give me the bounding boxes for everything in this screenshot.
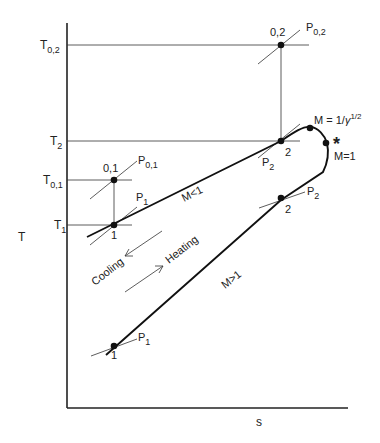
t-s-diagram: T s T0,2 T2 T0,1 T1 (0, 0, 380, 443)
label-point-01: 0,1 (103, 162, 118, 174)
label-isobar-p02: P0,2 (306, 21, 326, 37)
label-subsonic-branch: M<1 (179, 183, 204, 204)
y-axis-label: T (18, 230, 26, 244)
tick-t01: T0,1 (43, 173, 63, 190)
axes: T s (18, 23, 348, 429)
heating-arrow-icon (125, 266, 163, 292)
label-point-02: 0,2 (270, 26, 285, 38)
label-isobar-p2-subsonic: P2 (262, 156, 274, 172)
label-sonic: M=1 (334, 150, 356, 162)
label-point-2-supersonic: 2 (285, 203, 291, 215)
tick-t2: T2 (50, 134, 62, 151)
point-1-subsonic (111, 222, 118, 229)
point-max-temperature (307, 125, 314, 132)
label-point-2-subsonic: 2 (285, 146, 291, 158)
label-supersonic-branch: M>1 (219, 268, 244, 291)
label-isobar-p1-supersonic: P1 (138, 331, 150, 347)
point-02 (278, 42, 285, 49)
annotations: M = 1/γ1/2 * M=1 M<1 M>1 Cooling Heating (89, 112, 362, 291)
y-tick-labels: T0,2 T2 T0,1 T1 (40, 38, 66, 235)
cooling-arrow-icon (125, 231, 162, 256)
point-sonic (323, 140, 330, 147)
point-2-supersonic (278, 195, 285, 202)
label-isobar-p2-supersonic: P2 (307, 185, 319, 201)
label-point-1-supersonic: 1 (111, 349, 117, 361)
process-arrows (125, 231, 163, 292)
label-max-temperature-mach: M = 1/γ1/2 (314, 112, 362, 126)
label-point-1-subsonic: 1 (111, 229, 117, 241)
tick-t02: T0,2 (40, 38, 60, 55)
point-01 (111, 177, 118, 184)
point-2-subsonic (278, 138, 285, 145)
state-points (111, 42, 330, 350)
rayleigh-line (87, 127, 328, 355)
tick-t1: T1 (54, 218, 66, 235)
label-heating: Heating (163, 233, 200, 266)
label-isobar-p01: P0,1 (138, 154, 158, 170)
label-cooling: Cooling (89, 255, 126, 287)
label-isobar-p1-subsonic: P1 (136, 191, 148, 207)
point-labels: 0,1 P0,1 1 P1 0,2 P0,2 2 P2 2 P2 1 P1 (103, 21, 326, 361)
x-axis-label: s (256, 415, 262, 429)
